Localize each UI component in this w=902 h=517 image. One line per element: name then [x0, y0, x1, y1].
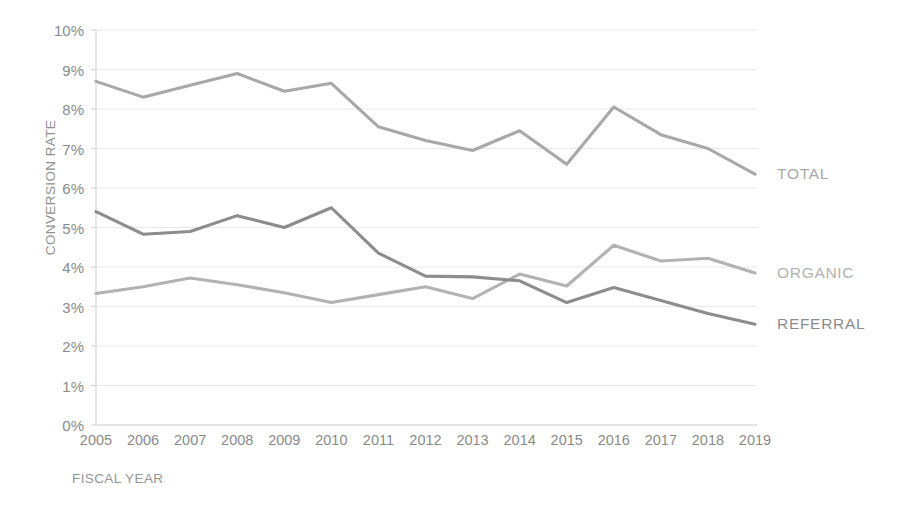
series-lines: [96, 73, 755, 324]
line-chart: CONVERSION RATE 0%1%2%3%4%5%6%7%8%9%10% …: [0, 0, 902, 517]
series-line-organic: [96, 245, 755, 302]
series-label-organic: ORGANIC: [777, 264, 854, 282]
gridlines: [96, 30, 757, 425]
x-axis-title: FISCAL YEAR: [72, 471, 163, 486]
series-label-referral: REFERRAL: [777, 315, 865, 333]
series-line-total: [96, 73, 755, 174]
plot-area: [0, 0, 902, 517]
series-label-total: TOTAL: [777, 165, 829, 183]
